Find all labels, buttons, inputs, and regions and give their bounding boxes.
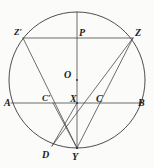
chord-z-y — [77, 38, 133, 148]
point-label-d: D — [42, 150, 49, 160]
point-label-y: Y — [72, 152, 78, 162]
point-label-zprime: Z′ — [14, 28, 22, 37]
point-label-c: C — [96, 94, 103, 104]
geometry-figure: Z′PZOAC′XCBDY — [0, 0, 154, 168]
diagram-canvas — [0, 0, 154, 168]
vertex-dot-y — [76, 147, 78, 149]
point-label-z: Z — [135, 28, 141, 38]
point-label-x: X — [70, 94, 77, 104]
vertex-dot-o — [76, 79, 78, 81]
point-label-cprime: C′ — [42, 94, 51, 103]
point-label-p: P — [79, 28, 85, 38]
point-label-a: A — [4, 98, 11, 108]
point-label-o: O — [64, 70, 71, 80]
chord-z-d — [52, 38, 133, 146]
point-label-b: B — [138, 98, 145, 108]
